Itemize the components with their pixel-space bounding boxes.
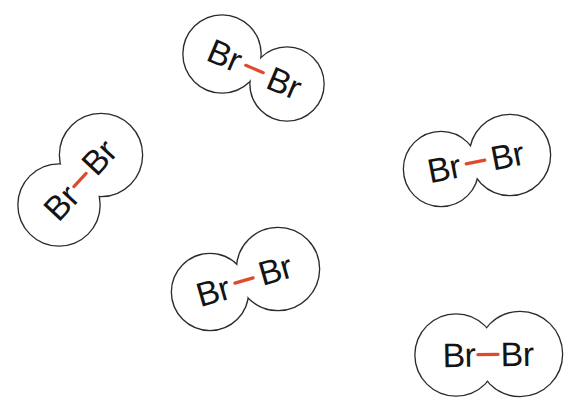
br2-molecule-br2-right-middle: BrBr xyxy=(404,115,550,206)
atom-label: Br xyxy=(442,336,476,375)
br2-molecule-br2-top-center: BrBr xyxy=(184,16,324,121)
molecule-diagram: BrBrBrBrBrBrBrBrBrBr xyxy=(0,0,567,405)
br2-molecules-canvas: BrBrBrBrBrBrBrBrBrBr xyxy=(0,0,567,405)
br2-molecule-br2-bottom-right: BrBr xyxy=(416,312,563,396)
atom-label: Br xyxy=(500,335,534,374)
br2-molecule-br2-left: BrBr xyxy=(19,114,143,246)
br2-molecule-br2-bottom-center: BrBr xyxy=(172,228,319,330)
